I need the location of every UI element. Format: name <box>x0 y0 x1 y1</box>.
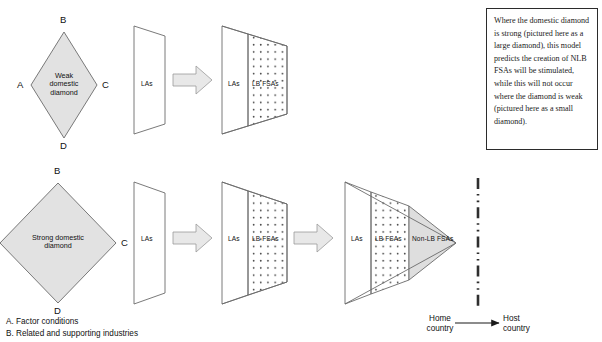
legend-item-b: B. Related and supporting industries <box>6 328 138 340</box>
host-country-line-2: country <box>503 324 559 334</box>
weak-diamond-label-line-3: diamond <box>34 89 94 97</box>
top-stage1-label-las: LAs <box>141 80 153 87</box>
weak-diamond-label: Weak domestic diamond <box>34 72 94 97</box>
legend-item-a: A. Factor conditions <box>6 316 138 328</box>
bottom-stage1-shape <box>134 182 165 304</box>
top-stage2-label-lbfsas: LB FSAs <box>252 80 279 87</box>
home-country-line-2: country <box>412 324 468 334</box>
host-country-label: Host country <box>503 314 559 334</box>
strong-diamond-vertex-right: C <box>121 237 128 248</box>
weak-diamond-vertex-right: C <box>102 79 109 90</box>
bottom-stage3-label-nonlbfsas: Non-LB FSAs <box>412 235 453 242</box>
weak-diamond-vertex-bottom: D <box>60 140 67 151</box>
weak-diamond-vertex-top: B <box>60 14 66 25</box>
bottom-stage3-label-las: LAs <box>351 235 363 242</box>
explanatory-note-text: Where the domestic diamond is strong (pi… <box>494 15 591 128</box>
bottom-stage3-label-lbfsas: LB FSAs <box>375 235 402 242</box>
host-country-line-1: Host <box>503 314 559 324</box>
top-stage2-label-las: LAs <box>228 80 240 87</box>
strong-diamond-vertex-top: B <box>54 165 60 176</box>
bottom-stage3-shape <box>345 182 456 304</box>
strong-diamond-vertex-bottom: D <box>54 305 61 316</box>
bottom-stage2-label-lbfsas: LB FSAs <box>252 235 279 242</box>
bottom-arrow-1 <box>173 224 212 252</box>
top-arrow-1 <box>173 66 212 94</box>
bottom-stage2-label-las: LAs <box>228 235 240 242</box>
bottom-arrow-2 <box>294 224 333 252</box>
legend: A. Factor conditions B. Related and supp… <box>6 316 138 339</box>
strong-diamond-label: Strong domestic diamond <box>16 234 100 251</box>
strong-diamond-label-line-2: diamond <box>16 242 100 250</box>
bottom-stage1-label-las: LAs <box>141 235 153 242</box>
bottom-stage2-shape <box>222 182 287 304</box>
home-country-line-1: Home <box>412 314 468 324</box>
weak-diamond-vertex-left: A <box>17 79 23 90</box>
home-country-label: Home country <box>412 314 468 334</box>
explanatory-note-box: Where the domestic diamond is strong (pi… <box>486 8 598 150</box>
